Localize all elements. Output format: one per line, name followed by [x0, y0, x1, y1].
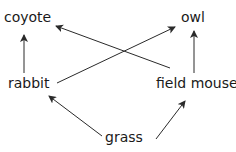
node-grass: grass [105, 129, 143, 145]
food-web-diagram: coyote owl rabbit field mouse grass [0, 0, 236, 152]
node-rabbit: rabbit [8, 75, 50, 91]
node-coyote: coyote [4, 9, 51, 25]
arrow-grass-to-field-mouse [156, 101, 185, 139]
arrow-grass-to-rabbit [49, 96, 102, 136]
arrow-field-mouse-to-coyote [56, 26, 170, 68]
node-field-mouse: field mouse [156, 75, 236, 91]
node-owl: owl [181, 9, 205, 25]
